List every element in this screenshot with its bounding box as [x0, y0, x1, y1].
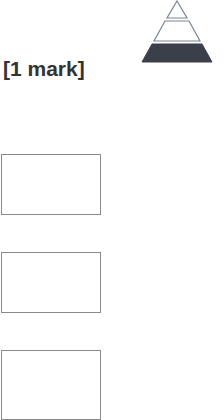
difficulty-pyramid-icon [138, 0, 216, 64]
answer-box-3[interactable] [1, 350, 101, 420]
pyramid-top-level [167, 1, 187, 18]
pyramid-middle-level [154, 21, 200, 41]
answer-box-1[interactable] [1, 154, 101, 215]
answer-box-2[interactable] [1, 252, 101, 313]
marks-label: [1 mark] [3, 57, 85, 81]
pyramid-bottom-level [142, 44, 212, 62]
